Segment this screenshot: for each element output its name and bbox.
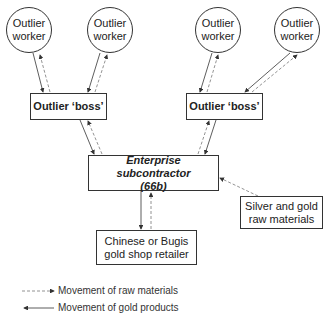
gold-shop-retailer: Chinese or Bugis gold shop retailer: [96, 230, 197, 265]
enterprise-subcontractor: Enterprise subcontractor (66b): [88, 155, 219, 191]
outlier-boss-right: Outlier ‘boss’: [186, 93, 263, 120]
legend-raw-materials: Movement of raw materials: [58, 285, 178, 296]
raw-materials-source: Silver and gold raw materials: [240, 196, 323, 229]
outlier-worker-2: Outlier worker: [87, 7, 133, 53]
outlier-worker-1: Outlier worker: [6, 7, 52, 53]
outlier-worker-3: Outlier worker: [195, 7, 241, 53]
legend-gold-products: Movement of gold products: [58, 302, 179, 313]
outlier-worker-4: Outlier worker: [274, 7, 320, 53]
outlier-boss-left: Outlier ‘boss’: [30, 93, 107, 120]
